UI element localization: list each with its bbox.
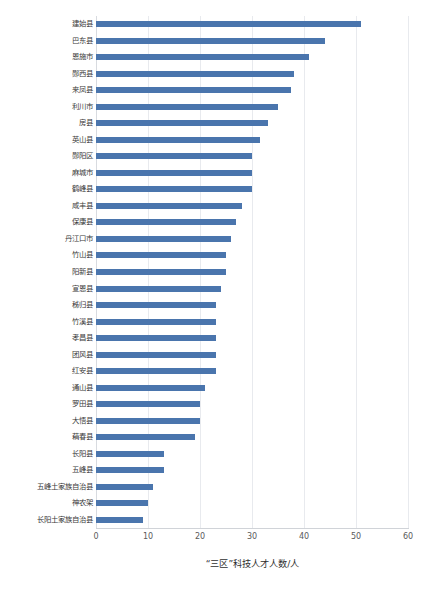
bar-row bbox=[96, 198, 408, 215]
x-tick-label: 10 bbox=[143, 532, 153, 541]
x-tick-label: 50 bbox=[351, 532, 361, 541]
category-label: 鹤峰县 bbox=[0, 185, 93, 192]
category-label: 孝昌县 bbox=[0, 334, 93, 341]
bar bbox=[96, 286, 221, 292]
x-tick-label: 20 bbox=[195, 532, 205, 541]
gridline-60 bbox=[408, 16, 409, 528]
bar bbox=[96, 153, 252, 159]
bar-row bbox=[96, 264, 408, 281]
category-label: 利川市 bbox=[0, 103, 93, 110]
category-axis-labels: 建始县巴东县恩施市郧西县来凤县利川市房县英山县郧阳区麻城市鹤峰县咸丰县保康县丹江… bbox=[0, 16, 93, 528]
bar-row bbox=[96, 165, 408, 182]
bar bbox=[96, 517, 143, 523]
bar-row bbox=[96, 379, 408, 396]
bar-row bbox=[96, 330, 408, 347]
bar bbox=[96, 319, 216, 325]
bar bbox=[96, 418, 200, 424]
bar bbox=[96, 236, 231, 242]
bar-row bbox=[96, 478, 408, 495]
bar bbox=[96, 38, 325, 44]
category-label: 五峰土家族自治县 bbox=[0, 483, 93, 490]
bar-row bbox=[96, 132, 408, 149]
bar bbox=[96, 104, 278, 110]
bar bbox=[96, 401, 200, 407]
category-label: 英山县 bbox=[0, 136, 93, 143]
bar bbox=[96, 137, 260, 143]
category-label: 房县 bbox=[0, 119, 93, 126]
bar-row bbox=[96, 280, 408, 297]
bar bbox=[96, 484, 153, 490]
bar bbox=[96, 335, 216, 341]
category-label: 郧西县 bbox=[0, 70, 93, 77]
bar bbox=[96, 219, 236, 225]
bar bbox=[96, 252, 226, 258]
bar bbox=[96, 186, 252, 192]
bar-row bbox=[96, 82, 408, 99]
bar-row bbox=[96, 297, 408, 314]
bar bbox=[96, 54, 309, 60]
bar bbox=[96, 302, 216, 308]
bar bbox=[96, 87, 291, 93]
category-label: 长阳县 bbox=[0, 450, 93, 457]
x-tick-label: 30 bbox=[247, 532, 257, 541]
bar bbox=[96, 434, 195, 440]
bar-row bbox=[96, 363, 408, 380]
bar-row bbox=[96, 115, 408, 132]
bar-row bbox=[96, 412, 408, 429]
bar bbox=[96, 451, 164, 457]
bar-row bbox=[96, 511, 408, 528]
x-axis-tick-labels: 0102030405060 bbox=[96, 532, 409, 548]
bar-row bbox=[96, 346, 408, 363]
bar-row bbox=[96, 231, 408, 248]
category-label: 大悟县 bbox=[0, 417, 93, 424]
x-tick-label: 40 bbox=[299, 532, 309, 541]
bar bbox=[96, 269, 226, 275]
category-label: 丹江口市 bbox=[0, 235, 93, 242]
x-tick-label: 60 bbox=[403, 532, 413, 541]
category-label: 麻城市 bbox=[0, 169, 93, 176]
category-label: 竹溪县 bbox=[0, 318, 93, 325]
bar-row bbox=[96, 429, 408, 446]
bar bbox=[96, 203, 242, 209]
category-label: 阳新县 bbox=[0, 268, 93, 275]
bar-row bbox=[96, 396, 408, 413]
category-label: 保康县 bbox=[0, 218, 93, 225]
plot-area bbox=[96, 16, 408, 528]
x-axis-line bbox=[96, 528, 409, 529]
bar-row bbox=[96, 214, 408, 231]
bar-row bbox=[96, 462, 408, 479]
category-label: 红安县 bbox=[0, 367, 93, 374]
category-label: 来凤县 bbox=[0, 86, 93, 93]
bar-row bbox=[96, 247, 408, 264]
category-label: 恩施市 bbox=[0, 53, 93, 60]
bar bbox=[96, 21, 361, 27]
bar-row bbox=[96, 495, 408, 512]
bar-series bbox=[96, 16, 408, 528]
bar bbox=[96, 352, 216, 358]
bar bbox=[96, 385, 205, 391]
category-label: 团风县 bbox=[0, 351, 93, 358]
bar-row bbox=[96, 49, 408, 66]
category-label: 罗田县 bbox=[0, 400, 93, 407]
bar-row bbox=[96, 16, 408, 33]
category-label: 咸丰县 bbox=[0, 202, 93, 209]
bar-chart: 建始县巴东县恩施市郧西县来凤县利川市房县英山县郧阳区麻城市鹤峰县咸丰县保康县丹江… bbox=[0, 0, 434, 593]
bar-row bbox=[96, 148, 408, 165]
bar-row bbox=[96, 181, 408, 198]
bar bbox=[96, 120, 268, 126]
bar-row bbox=[96, 33, 408, 50]
category-label: 通山县 bbox=[0, 384, 93, 391]
category-label: 巴东县 bbox=[0, 37, 93, 44]
bar bbox=[96, 467, 164, 473]
category-label: 建始县 bbox=[0, 20, 93, 27]
bar bbox=[96, 170, 252, 176]
x-tick-label: 0 bbox=[93, 532, 98, 541]
bar-row bbox=[96, 313, 408, 330]
x-axis-title: “三区”科技人才人数/人 bbox=[96, 556, 409, 570]
category-label: 秭归县 bbox=[0, 301, 93, 308]
category-label: 神农架 bbox=[0, 499, 93, 506]
category-label: 长阳土家族自治县 bbox=[0, 516, 93, 523]
bar bbox=[96, 368, 216, 374]
category-label: 五峰县 bbox=[0, 466, 93, 473]
category-label: 郧阳区 bbox=[0, 152, 93, 159]
